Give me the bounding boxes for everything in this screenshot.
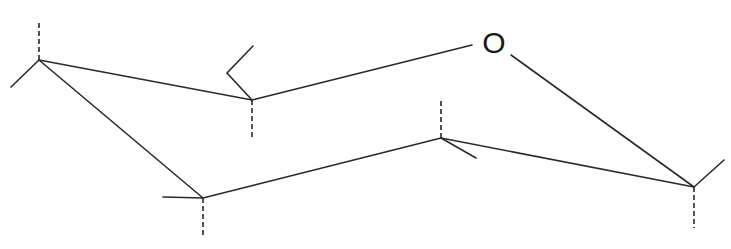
pyranose-chair-diagram: O: [0, 0, 731, 249]
bottom-equatorial-bond: [163, 197, 203, 198]
mid-right-atom-substituents: [441, 98, 476, 158]
bond-ring-oxygen-c1: [511, 55, 694, 187]
bond-c2-c3: [203, 138, 441, 198]
right-equatorial-bond: [694, 160, 724, 187]
bond-c5-c1-left: [39, 60, 203, 198]
top-equatorial-branch: [227, 46, 253, 100]
left-atom-substituents: [11, 20, 39, 87]
right-atom-substituents: [694, 160, 724, 228]
left-equatorial-bond: [11, 60, 39, 87]
bond-c5-c4: [39, 60, 252, 100]
ring-bonds: [39, 45, 694, 198]
bond-c3-c1: [441, 138, 694, 187]
bottom-atom-substituents: [163, 197, 203, 238]
ring-oxygen-label: O: [482, 26, 505, 59]
bond-c4-ring-oxygen: [252, 45, 472, 100]
top-atom-substituents: [227, 46, 253, 140]
